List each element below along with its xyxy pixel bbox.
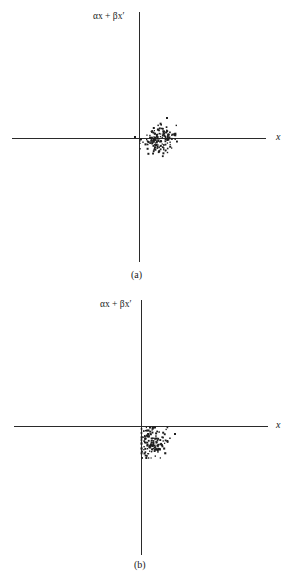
scatter-point xyxy=(149,447,150,448)
scatter-point xyxy=(141,438,142,439)
scatter-point xyxy=(157,446,158,447)
scatter-point xyxy=(161,436,163,438)
panel-b: αx + βx′ x (b) xyxy=(0,0,301,581)
scatter-point xyxy=(164,443,165,444)
scatter-points xyxy=(0,0,301,581)
scatter-point xyxy=(151,440,153,442)
scatter-point xyxy=(143,449,144,450)
scatter-point xyxy=(157,440,159,442)
scatter-point xyxy=(141,433,142,434)
scatter-point xyxy=(156,442,157,443)
scatter-point xyxy=(155,427,157,429)
scatter-point xyxy=(155,438,157,440)
scatter-point xyxy=(141,457,143,459)
scatter-point xyxy=(148,457,149,458)
scatter-point xyxy=(159,439,161,441)
scatter-point xyxy=(153,440,155,442)
scatter-point xyxy=(158,448,160,450)
scatter-point xyxy=(161,444,163,446)
scatter-point xyxy=(155,455,156,456)
scatter-point xyxy=(155,432,157,434)
scatter-point xyxy=(141,448,143,450)
scatter-point xyxy=(163,448,165,450)
scatter-point xyxy=(151,441,153,443)
scatter-point xyxy=(141,428,143,430)
scatter-point xyxy=(151,451,152,452)
scatter-point xyxy=(155,441,156,442)
scatter-point xyxy=(148,440,150,442)
scatter-point xyxy=(147,445,148,446)
scatter-point xyxy=(149,431,151,433)
scatter-point xyxy=(145,457,147,459)
scatter-point xyxy=(146,427,147,428)
scatter-point xyxy=(150,434,152,436)
scatter-point xyxy=(147,453,148,454)
scatter-point xyxy=(143,437,144,438)
scatter-point xyxy=(146,435,147,436)
scatter-point xyxy=(146,455,148,457)
scatter-point xyxy=(146,430,148,432)
scatter-point xyxy=(157,451,159,453)
scatter-point xyxy=(151,457,152,458)
scatter-point xyxy=(160,457,161,458)
scatter-point xyxy=(166,429,167,430)
scatter-point xyxy=(144,452,146,454)
scatter-point xyxy=(166,440,168,442)
scatter-point xyxy=(151,449,152,450)
scatter-point xyxy=(152,445,154,447)
scatter-point xyxy=(163,440,164,441)
scatter-point xyxy=(157,444,159,446)
scatter-point xyxy=(152,438,153,439)
scatter-point xyxy=(141,451,143,453)
scatter-point xyxy=(152,430,153,431)
scatter-point xyxy=(154,445,156,447)
scatter-point xyxy=(147,448,148,449)
scatter-point xyxy=(149,451,150,452)
scatter-point xyxy=(145,436,146,437)
scatter-point xyxy=(143,430,145,432)
scatter-point xyxy=(151,438,153,440)
scatter-point xyxy=(164,433,166,435)
scatter-point xyxy=(169,438,171,440)
scatter-point xyxy=(141,439,142,440)
outlier-point xyxy=(174,433,176,435)
scatter-point xyxy=(156,448,158,450)
scatter-point xyxy=(143,446,144,447)
scatter-point xyxy=(155,435,157,437)
scatter-point xyxy=(159,444,161,446)
scatter-point xyxy=(156,431,158,433)
scatter-point xyxy=(165,440,167,442)
scatter-point xyxy=(144,448,146,450)
scatter-point xyxy=(164,452,166,454)
scatter-point xyxy=(141,452,143,454)
scatter-point xyxy=(150,444,151,445)
scatter-point xyxy=(144,439,145,440)
scatter-point xyxy=(157,438,159,440)
scatter-point xyxy=(167,427,169,429)
scatter-point xyxy=(152,432,154,434)
scatter-point xyxy=(158,431,160,433)
scatter-point xyxy=(148,436,150,438)
scatter-point xyxy=(153,442,154,443)
scatter-point xyxy=(141,442,142,443)
scatter-point xyxy=(144,442,145,443)
scatter-point xyxy=(149,427,151,429)
